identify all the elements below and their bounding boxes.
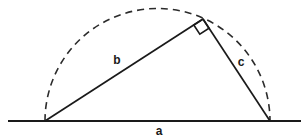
canvas-background [0,0,308,139]
label-leg-c: c [238,55,245,69]
geometry-diagram: a b c [0,0,308,139]
label-leg-b: b [113,53,120,67]
label-hypotenuse-a: a [156,124,163,138]
geometry-canvas: a b c [0,0,308,139]
